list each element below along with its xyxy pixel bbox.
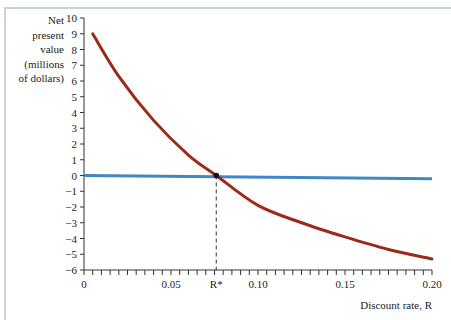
x-tick-label: 0.20 [422,278,442,290]
npv-chart: 109876543210−1−2−3−4−5−600.05R*0.100.150… [0,0,451,320]
x-tick-label: 0 [81,278,87,290]
y-tick-label: 9 [72,28,78,40]
y-axis-title: of dollars) [18,72,64,85]
zero-npv-line [84,176,432,179]
y-tick-label: 1 [72,154,78,166]
y-tick-label: 4 [72,107,78,119]
r-star-point [213,173,219,179]
y-tick-label: 2 [72,138,78,150]
y-tick-label: −1 [65,185,77,197]
y-tick-label: 0 [72,170,78,182]
npv-curve [93,34,432,259]
y-axis-title: present [32,29,64,41]
y-axis-title: (millions [24,58,64,71]
y-tick-label: −3 [65,217,77,229]
x-tick-label: 0.05 [161,278,181,290]
x-tick-label: R* [210,278,223,290]
y-tick-label: 5 [72,91,78,103]
x-axis-title: Discount rate, R [360,299,432,311]
x-tick-label: 0.10 [248,278,268,290]
y-tick-label: −5 [65,248,77,260]
y-tick-label: −2 [65,201,77,213]
y-tick-label: 3 [72,122,78,134]
y-tick-label: −6 [65,264,77,276]
y-tick-label: −4 [65,233,77,245]
y-tick-label: 6 [72,75,78,87]
y-axis-title: Net [48,14,64,26]
y-tick-label: 10 [66,12,78,24]
x-tick-label: 0.15 [335,278,355,290]
y-tick-label: 8 [72,44,78,56]
y-tick-label: 7 [72,59,78,71]
y-axis-title: value [40,43,64,55]
